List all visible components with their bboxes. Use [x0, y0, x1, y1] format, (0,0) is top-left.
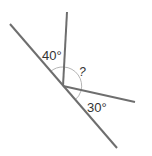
angle-diagram: 40° ? 30° — [0, 0, 152, 156]
arc-30-degree — [75, 91, 81, 100]
label-unknown-angle: ? — [79, 65, 86, 79]
label-30-degrees: 30° — [87, 100, 107, 115]
upper-ray — [63, 12, 67, 86]
label-40-degrees: 40° — [42, 48, 62, 63]
diagram-canvas: 40° ? 30° — [0, 0, 152, 156]
arc-40-degree — [50, 67, 64, 72]
